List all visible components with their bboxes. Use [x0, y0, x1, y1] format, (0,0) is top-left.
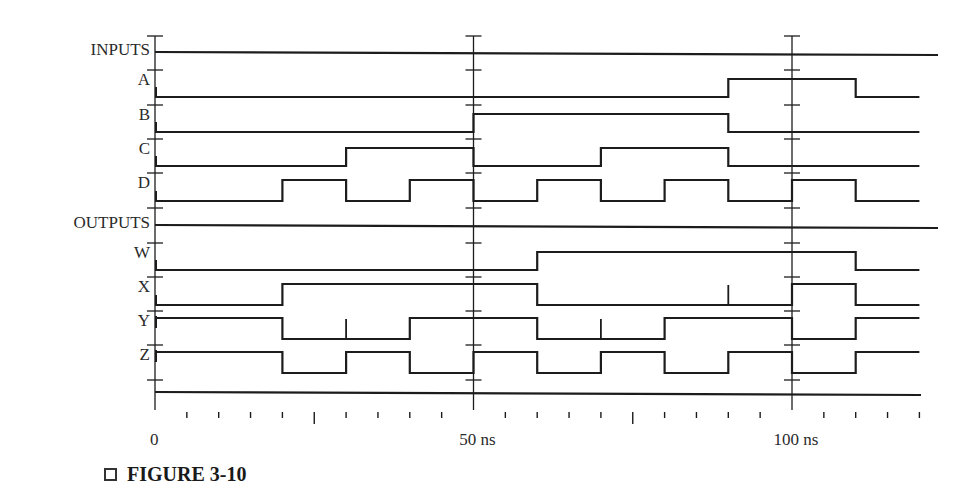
signal-label-z: Z	[0, 346, 150, 364]
waveform-a	[155, 79, 919, 97]
waveform-x	[155, 284, 919, 305]
axis-label-0: 0	[150, 431, 159, 449]
signal-label-x: X	[0, 278, 150, 296]
signal-label-y: Y	[0, 312, 150, 330]
signal-label-c: C	[0, 140, 150, 158]
waveform-c	[155, 148, 919, 166]
waveform-d	[155, 180, 919, 201]
waveform-w	[155, 252, 919, 270]
figure-caption: FIGURE 3-10	[104, 463, 246, 485]
group-label-inputs: INPUTS	[0, 41, 150, 59]
axis-label-50: 50 ns	[459, 431, 495, 449]
group-line-inputs	[155, 52, 938, 55]
bottom-baseline	[155, 392, 921, 395]
axis-label-100: 100 ns	[774, 431, 819, 449]
signal-label-a: A	[0, 71, 150, 89]
signal-label-w: W	[0, 244, 150, 262]
square-box-icon	[104, 468, 117, 481]
figure-caption-text: FIGURE 3-10	[127, 463, 246, 485]
waveform-z	[155, 352, 919, 373]
group-label-outputs: OUTPUTS	[0, 214, 150, 232]
waveform-b	[155, 114, 919, 132]
group-line-outputs	[155, 225, 938, 228]
waveform-y	[155, 318, 919, 339]
signal-label-d: D	[0, 174, 150, 192]
signal-label-b: B	[0, 106, 150, 124]
